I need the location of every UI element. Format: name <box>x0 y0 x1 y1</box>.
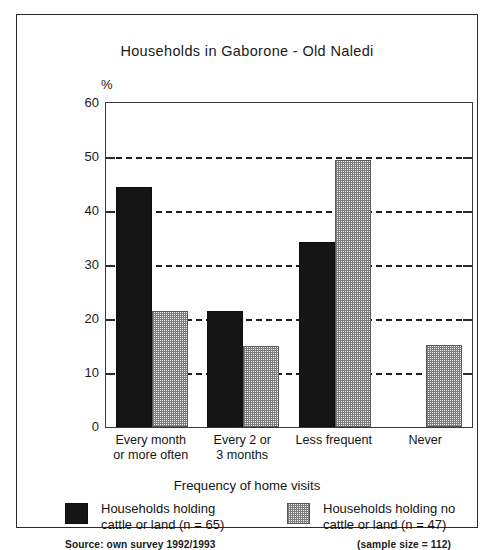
chart-title: Households in Gaborone - Old Naledi <box>17 43 477 59</box>
solid-black-swatch <box>65 503 88 524</box>
y-tick-label-40: 40 <box>65 203 99 218</box>
y-tick-label-60: 60 <box>65 95 99 110</box>
bar-series2-group2 <box>243 346 279 427</box>
bar-series1-group3 <box>299 242 335 427</box>
tick-left-40 <box>106 211 115 213</box>
category-label-line2: or more often <box>105 448 197 463</box>
category-label-line1: Every month <box>105 433 197 448</box>
category-label-line1: Less frequent <box>288 433 380 448</box>
tick-left-30 <box>106 265 115 267</box>
category-label-line2: 3 months <box>197 448 289 463</box>
legend-label-2: Households holding no cattle or land (n … <box>323 501 455 532</box>
gridline-30 <box>106 265 472 267</box>
legend-item-1: Households holding cattle or land (n = 6… <box>65 501 224 532</box>
category-label-line1: Every 2 or <box>197 433 289 448</box>
tick-right-30 <box>463 265 472 267</box>
bar-series2-group1 <box>152 311 188 427</box>
y-tick-label-20: 20 <box>65 311 99 326</box>
y-axis-unit-label: % <box>101 77 113 92</box>
tick-left-50 <box>106 157 115 159</box>
category-label-4: Never <box>380 433 472 448</box>
tick-left-10 <box>106 373 115 375</box>
y-tick-label-30: 30 <box>65 257 99 272</box>
tick-right-20 <box>463 319 472 321</box>
chart-legend: Households holding cattle or land (n = 6… <box>65 501 475 535</box>
y-tick-label-10: 10 <box>65 365 99 380</box>
plot-area <box>105 102 473 428</box>
tick-right-50 <box>463 157 472 159</box>
tick-left-20 <box>106 319 115 321</box>
gridline-40 <box>106 211 472 213</box>
legend-label-1: Households holding cattle or land (n = 6… <box>101 501 224 532</box>
sample-size-note: (sample size = 112) <box>357 539 451 550</box>
category-label-2: Every 2 or3 months <box>197 433 289 463</box>
bar-series2-group4 <box>426 345 462 427</box>
category-label-line1: Never <box>380 433 472 448</box>
legend-item-2: Households holding no cattle or land (n … <box>287 501 455 532</box>
x-axis-title: Frequency of home visits <box>17 478 477 493</box>
y-tick-label-0: 0 <box>65 419 99 434</box>
x-axis-category-labels: Every monthor more oftenEvery 2 or3 mont… <box>105 433 473 473</box>
figure-frame: Households in Gaborone - Old Naledi % 01… <box>16 14 478 528</box>
tick-right-40 <box>463 211 472 213</box>
dotted-gray-swatch <box>287 503 310 524</box>
source-note: Source: own survey 1992/1993 <box>65 539 216 550</box>
category-label-1: Every monthor more often <box>105 433 197 463</box>
y-axis-tick-labels: 0102030405060 <box>61 102 99 428</box>
bar-series1-group2 <box>207 311 243 427</box>
plot-inner <box>106 103 472 427</box>
y-tick-label-50: 50 <box>65 149 99 164</box>
bar-series1-group1 <box>116 187 152 427</box>
gridline-50 <box>106 157 472 159</box>
category-label-3: Less frequent <box>288 433 380 448</box>
tick-right-10 <box>463 373 472 375</box>
bar-series2-group3 <box>335 160 371 427</box>
